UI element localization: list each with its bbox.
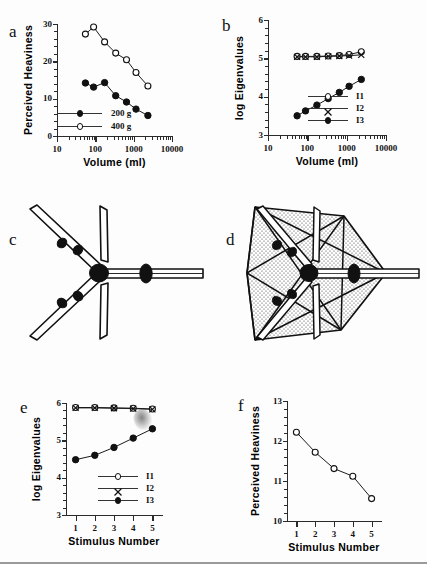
panel-b-x-axis-title: Volume (ml) [252,155,402,167]
panel-b-legend-label: I2 [356,103,364,113]
panel-a-x-minor-tick [89,137,90,140]
panel-b-x-minor-tick [380,136,381,139]
panel-a-x-tick [172,137,173,142]
panel-a-x-minor-tick [118,137,119,140]
panel-f-y-minor-tick [284,449,287,450]
panel-e: e 345612345Stimulus Numberlog Eigenvalue… [0,380,213,564]
panel-a-marker-open [133,70,139,76]
panel-a-y-minor-tick [54,46,57,47]
panel-a-x-minor-tick [160,137,161,140]
panel-a-x-minor-tick [69,137,70,140]
panel-e-legend-label: I2 [146,483,154,493]
panel-f-y-minor-tick [284,505,287,506]
rod-upper-left [30,205,100,269]
panel-e-marker-cross [92,405,98,411]
panel-b-marker-cross [336,53,342,59]
panel-f-y-minor-tick [284,473,287,474]
panel-a-x-minor-tick [107,137,108,140]
panel-e-y-minor-tick [63,433,66,434]
panel-b-x-minor-tick [359,136,360,139]
panel-a-x-axis-title: Volume (ml) [40,156,190,168]
tensor-object-open [0,190,213,380]
panel-a-x-minor-tick [122,137,123,140]
panel-a-x-minor-tick [152,137,153,140]
panel-a-y-tick [53,24,58,25]
panel-b-x-tick [307,136,308,141]
panel-b-x-minor-tick [343,136,344,139]
panel-a-legend-marker-filled [77,110,83,116]
panel-b-x-minor-tick [301,136,302,139]
panel-a-y-minor-tick [54,76,57,77]
panel-a-x-tick [57,137,58,142]
panel-b-y-axis [268,20,269,135]
panel-b-marker-cross [294,54,300,60]
panel-f-y-minor-tick [284,497,287,498]
panel-a-x-minor-tick [145,137,146,140]
panel-e-x-tick [133,516,134,521]
panel-f-x-ticklabel: 5 [350,529,394,539]
panel-a-x-minor-tick [130,137,131,140]
panel-b-y-tick [264,20,269,21]
panel-a-y-minor-tick [54,106,57,107]
panel-b-x-ticklabel: 1000 [325,143,369,153]
panel-a-y-minor-tick [54,129,57,130]
panel-e-marker-cross [111,405,117,411]
panel-e-y-minor-tick [63,455,66,456]
panel-a-x-minor-tick [128,137,129,140]
panel-b-marker-filled [294,113,300,119]
rod-lower-left [30,276,100,340]
panel-e-legend-marker-filled [115,497,121,503]
panel-e-series-line [76,408,153,409]
panel-a: a 010203010100100010000Volume (ml)Percei… [0,0,213,190]
panel-a-x-minor-tick [168,137,169,140]
panel-a-x-minor-tick [170,137,171,140]
panel-e-x-axis-title: Stimulus Number [39,535,189,547]
panel-f-x-tick [296,522,297,527]
panel-f-marker-open [293,429,299,435]
panel-b-y-minor-tick [265,89,268,90]
panel-e-marker-filled [92,452,98,458]
panel-a-marker-filled [133,106,139,112]
panel-a-x-minor-tick [132,137,133,140]
tensor-object-open-svg [0,190,213,380]
panel-e-x-tick [76,516,77,521]
central-hub [90,264,109,282]
panel-b-y-minor-tick [265,112,268,113]
panel-b-x-ticklabel: 100 [285,143,329,153]
panel-a-plot: 010203010100100010000Volume (ml)Perceive… [0,0,213,190]
panel-b-y-tick [264,58,269,59]
panel-a-y-axis [57,24,58,136]
panel-e-marker-filled [130,435,136,441]
panel-b-x-minor-tick [365,136,366,139]
panel-a-x-minor-tick [114,137,115,140]
panel-e-y-tick [62,515,67,516]
panel-b-x-minor-tick [304,136,305,139]
panel-b-marker-open [303,53,309,59]
panel-b-y-minor-tick [265,74,268,75]
panel-e-series-line [76,429,153,460]
panel-b-marker-open [314,53,320,59]
panel-b-marker-cross [325,53,331,59]
panel-b-marker-open [336,53,342,59]
panel-e-y-minor-tick [63,448,66,449]
panel-f-marker-open [331,466,337,472]
panel-b-legend-label: I1 [356,91,364,101]
panel-b-x-minor-tick [319,136,320,139]
panel-f-y-minor-tick [284,425,287,426]
panel-a-marker-filled [145,112,151,118]
panel-a-x-tick [134,137,135,142]
panel-a-x-ticklabel: 10000 [150,144,194,154]
central-hub [300,265,318,282]
panel-f-y-minor-tick [284,489,287,490]
panel-f-y-minor-tick [284,457,287,458]
panel-f-y-tick [283,401,288,402]
panel-b-x-minor-tick [287,136,288,139]
panel-b-x-minor-tick [384,136,385,139]
panel-b-plot: 345610100100010000Volume (ml)log Eigenva… [213,0,427,190]
panel-e-marker-filled [72,457,78,463]
panel-c: c [0,190,213,380]
panel-b-x-minor-tick [295,136,296,139]
tensor-object-enclosed-svg [213,190,427,380]
panel-b-y-minor-tick [265,28,268,29]
panel-b-x-minor-tick [341,136,342,139]
